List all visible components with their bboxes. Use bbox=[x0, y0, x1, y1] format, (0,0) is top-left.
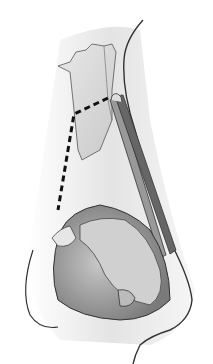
nose-illustration bbox=[0, 0, 213, 364]
nose-anatomy-svg bbox=[0, 0, 213, 364]
